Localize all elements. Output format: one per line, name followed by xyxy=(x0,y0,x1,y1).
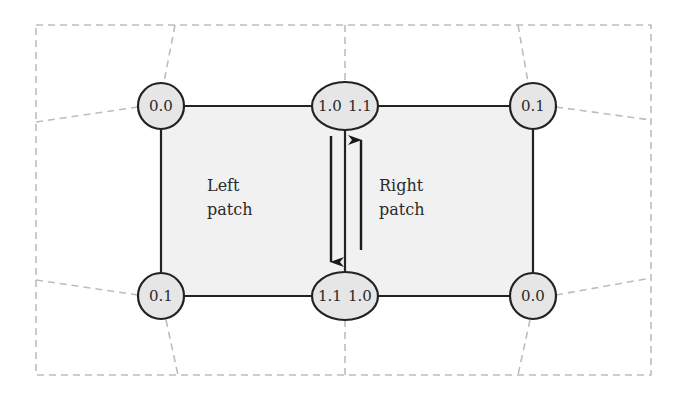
node-label-bottom-middle-right: 1.0 xyxy=(348,287,372,305)
node-label-bottom-middle-left: 1.1 xyxy=(318,287,342,305)
left-patch xyxy=(161,106,345,296)
node-label-top-right: 0.1 xyxy=(521,97,545,115)
node-label-top-middle-left: 1.0 xyxy=(318,97,342,115)
dashed-edge-bottom-left xyxy=(166,320,178,375)
patch-adjacency-diagram: Left patch Right patch 0.0 1.0 1.1 0.1 0… xyxy=(0,0,686,395)
left-patch-label-line1: Left xyxy=(207,176,240,195)
left-patch-label-line2: patch xyxy=(207,200,252,219)
dashed-edge-left-lower xyxy=(36,280,138,295)
node-label-bottom-left: 0.1 xyxy=(149,287,173,305)
node-label-bottom-right: 0.0 xyxy=(521,287,545,305)
dashed-edge-right-upper xyxy=(556,107,651,120)
dashed-edge-right-lower xyxy=(556,278,651,295)
dashed-edge-left-upper xyxy=(36,107,138,122)
right-patch-label-line1: Right xyxy=(379,176,424,195)
right-patch xyxy=(345,106,533,296)
dashed-edge-top-right xyxy=(518,25,528,82)
node-label-top-left: 0.0 xyxy=(149,97,173,115)
dashed-edge-top-left xyxy=(164,25,175,82)
right-patch-label-line2: patch xyxy=(379,200,424,219)
node-label-top-middle-right: 1.1 xyxy=(348,97,372,115)
dashed-edge-bottom-right xyxy=(518,320,530,375)
